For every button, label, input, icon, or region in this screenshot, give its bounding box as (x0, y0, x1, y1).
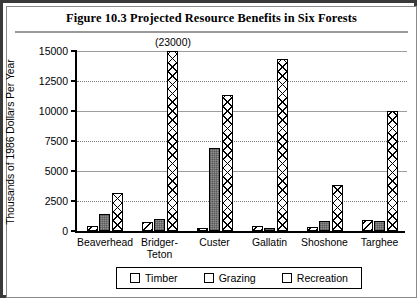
bar (154, 219, 165, 231)
legend-label: Grazing (219, 272, 256, 284)
bar (197, 228, 208, 231)
bar-group (197, 51, 233, 231)
gridline (77, 111, 407, 112)
bar (264, 228, 275, 231)
x-axis-tick-label: Bridger- Teton (132, 237, 187, 260)
legend-swatch-grazing-icon (204, 273, 214, 283)
bar-group (252, 51, 288, 231)
gridline (77, 81, 407, 82)
plot-area: 0250050007500100001250015000 BeaverheadB… (75, 51, 405, 233)
x-axis-tick-label: Shoshone (297, 237, 352, 249)
legend-item: Timber (130, 272, 178, 284)
bar (307, 227, 318, 231)
bar (142, 222, 153, 231)
legend-swatch-recreation-icon (282, 273, 292, 283)
y-axis-tick (71, 230, 77, 232)
gridline (77, 51, 407, 52)
gridline (77, 171, 407, 172)
bar-group (307, 51, 343, 231)
y-axis-tick (71, 170, 77, 172)
bar (319, 221, 330, 231)
figure-title: Figure 10.3 Projected Resource Benefits … (7, 11, 416, 26)
bar-group (362, 51, 398, 231)
bar (374, 221, 385, 231)
bar (387, 111, 398, 231)
figure-inner-frame: Figure 10.3 Projected Resource Benefits … (6, 6, 417, 298)
bar (99, 214, 110, 231)
y-axis-title: Thousands of 1986 Dollars Per Year (5, 51, 19, 233)
legend-item: Grazing (204, 272, 256, 284)
y-axis-tick-label: 5000 (45, 166, 68, 176)
legend-item: Recreation (282, 272, 348, 284)
y-axis-tick (71, 140, 77, 142)
bar-group (87, 51, 123, 231)
title-divider (15, 31, 408, 33)
y-axis-tick-label: 10000 (39, 106, 68, 116)
y-axis-tick (71, 50, 77, 52)
bar (112, 193, 123, 231)
figure-container: Figure 10.3 Projected Resource Benefits … (0, 0, 417, 298)
y-axis-tick-label: 0 (62, 226, 68, 236)
y-axis-tick (71, 200, 77, 202)
y-axis-tick-label: 7500 (45, 136, 68, 146)
legend-label: Recreation (297, 272, 348, 284)
gridline (77, 201, 407, 202)
bar (252, 226, 263, 231)
y-axis-tick-label: 12500 (39, 76, 68, 86)
bar-value-annotation: (23000) (150, 37, 196, 48)
x-axis-tick-label: Gallatin (242, 237, 297, 249)
legend-label: Timber (145, 272, 178, 284)
bar (362, 220, 373, 231)
y-axis-tick-label: 2500 (45, 196, 68, 206)
bar-group (142, 51, 178, 231)
y-axis-tick (71, 80, 77, 82)
bar (209, 148, 220, 231)
legend-swatch-timber-icon (130, 273, 140, 283)
bar (332, 185, 343, 231)
gridline (77, 141, 407, 142)
bar (87, 226, 98, 231)
chart-legend: TimberGrazingRecreation (116, 267, 362, 289)
x-axis-tick-label: Targhee (352, 237, 407, 249)
y-axis-tick-label: 15000 (39, 46, 68, 56)
bar (277, 59, 288, 231)
y-axis-tick (71, 110, 77, 112)
bar (222, 95, 233, 231)
bar (167, 51, 178, 231)
x-axis-tick-label: Custer (187, 237, 242, 249)
x-axis-tick-label: Beaverhead (77, 237, 132, 249)
